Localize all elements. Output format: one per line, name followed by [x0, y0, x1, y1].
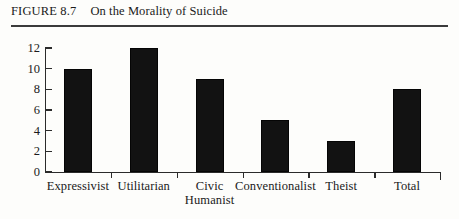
figure-caption: FIGURE 8.7 On the Morality of Suicide: [11, 4, 448, 26]
y-axis-tick-label: 4: [18, 125, 40, 138]
y-axis-tick: [45, 130, 52, 131]
bar: [130, 48, 158, 172]
y-axis-tick: [45, 47, 52, 48]
bar: [327, 141, 355, 172]
caption-divider: [11, 25, 448, 27]
bar: [196, 79, 224, 172]
y-axis-tick: [45, 171, 52, 172]
y-axis-tick-label: 10: [18, 63, 40, 76]
y-axis-tick: [45, 68, 52, 69]
bar: [393, 89, 421, 172]
x-axis-tick: [243, 173, 244, 178]
x-axis-category-label: Total: [347, 180, 459, 194]
figure-root: FIGURE 8.7 On the Morality of Suicide 02…: [0, 0, 459, 219]
y-axis-tick-label: 0: [18, 166, 40, 179]
bar: [261, 120, 289, 172]
figure-title: On the Morality of Suicide: [90, 4, 227, 19]
y-axis-tick-label: 6: [18, 104, 40, 117]
y-axis-tick-label: 8: [18, 83, 40, 96]
y-axis-tick: [45, 109, 52, 110]
y-axis-tick-label: 2: [18, 145, 40, 158]
figure-number: FIGURE 8.7: [11, 4, 76, 19]
x-axis-tick: [111, 173, 112, 178]
x-axis-tick: [308, 173, 309, 178]
bar-chart-plot-area: 024681012 ExpressivistUtilitarianCivicHu…: [0, 30, 459, 219]
x-axis-category-label-line: Humanist: [150, 194, 270, 208]
y-axis-tick: [45, 89, 52, 90]
x-axis-tick: [177, 173, 178, 178]
x-axis-end-tick: [440, 173, 441, 180]
x-axis-tick: [374, 173, 375, 178]
x-axis-category-label-line: Total: [394, 179, 420, 193]
bar: [64, 69, 92, 172]
y-axis-tick: [45, 151, 52, 152]
y-axis-tick-label: 12: [18, 42, 40, 55]
